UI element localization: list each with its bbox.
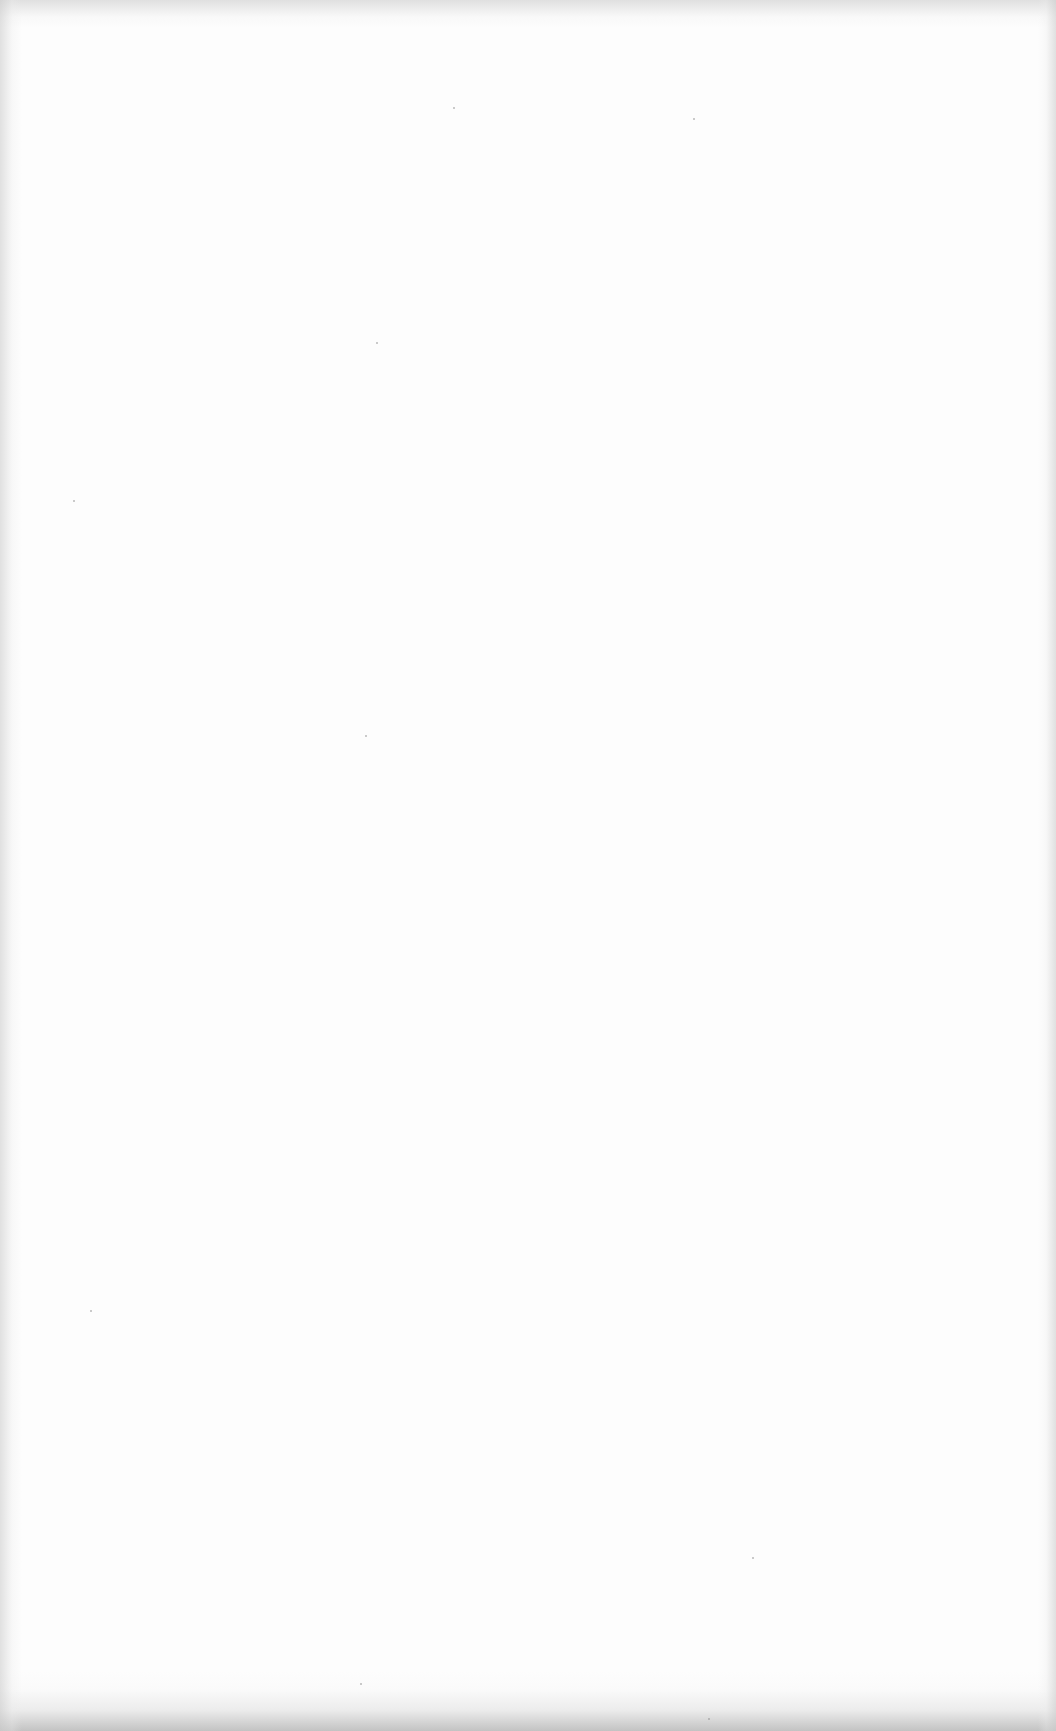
dust-speck	[752, 1557, 754, 1559]
dust-speck	[708, 1718, 710, 1720]
dust-speck	[693, 118, 695, 120]
dust-speck	[90, 1310, 92, 1312]
scan-edge-left	[0, 0, 22, 1731]
dust-speck	[376, 342, 378, 344]
blank-page	[0, 0, 1056, 1731]
scan-edge-right	[1038, 0, 1056, 1731]
dust-speck	[453, 107, 455, 109]
dust-speck	[360, 1683, 362, 1685]
scan-edge-bottom	[0, 1671, 1056, 1731]
dust-speck	[73, 500, 75, 502]
dust-speck	[365, 735, 367, 737]
scan-edge-top	[0, 0, 1056, 28]
